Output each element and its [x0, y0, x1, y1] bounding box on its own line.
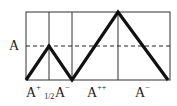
segment-3-base: A [87, 85, 97, 100]
segment-1-sub: 1/2 [44, 92, 54, 101]
segment-1-sup: + [36, 83, 41, 92]
segment-label-4: A− [135, 86, 150, 100]
segment-1-base: A [26, 85, 36, 100]
segment-label-2: A− [55, 86, 70, 100]
segment-3-sup: ++ [97, 83, 106, 92]
segment-label-1: A+ 1/2 [26, 86, 54, 100]
segment-2-base: A [55, 85, 65, 100]
y-axis-label: A [9, 39, 19, 53]
segment-4-base: A [135, 85, 145, 100]
segment-4-sup: − [145, 83, 150, 92]
segment-2-sup: − [65, 83, 70, 92]
segment-label-3: A++ [87, 86, 106, 100]
